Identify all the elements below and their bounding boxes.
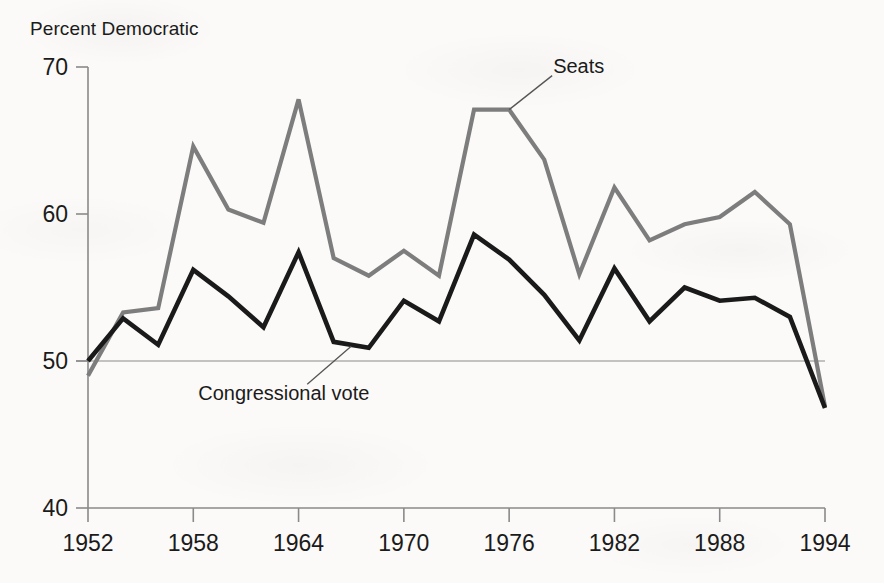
x-axis-tick-1988: 1988 [675,530,765,557]
x-axis-tick-1976: 1976 [464,530,554,557]
series-label-congressional-vote: Congressional vote [198,382,369,405]
y-axis-tick-60: 60 [8,201,68,228]
x-axis-tick-1958: 1958 [148,530,238,557]
chart-canvas: Percent Democratic 70605040 195219581964… [0,0,884,583]
series-label-seats: Seats [553,55,604,78]
y-axis-tick-70: 70 [8,54,68,81]
x-axis-tick-1970: 1970 [359,530,449,557]
series-layer [88,99,825,408]
x-axis-tick-1952: 1952 [43,530,133,557]
x-axis-tick-1964: 1964 [254,530,344,557]
x-axis-tick-1994: 1994 [780,530,870,557]
line-chart-plot [0,0,884,583]
x-axis-tick-1982: 1982 [569,530,659,557]
y-axis-tick-50: 50 [8,348,68,375]
y-axis-tick-40: 40 [8,495,68,522]
